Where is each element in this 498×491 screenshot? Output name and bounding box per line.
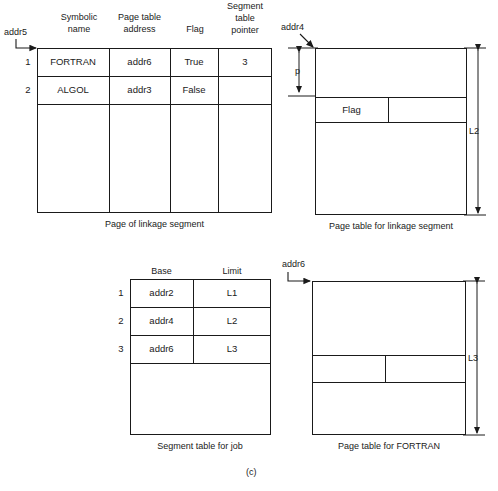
addr6-label: addr6 — [282, 259, 305, 270]
addr6-pointer-arrow — [288, 272, 310, 281]
column-header-limit: Limit — [193, 266, 271, 277]
cell-limit: L2 — [193, 315, 271, 326]
page-size-bracket — [288, 48, 318, 96]
segment-table-row-divider-1 — [130, 307, 271, 308]
caption-page-of-linkage-segment: Page of linkage segment — [37, 219, 272, 230]
addr5-pointer-arrow — [16, 39, 36, 48]
segment-table-row-number: 3 — [115, 343, 127, 354]
addr4-label: addr4 — [281, 22, 304, 33]
cell-symbolic-name: ALGOL — [37, 84, 109, 95]
l3-label: L3 — [468, 353, 478, 364]
column-header-flag: Flag — [170, 24, 220, 35]
l2-label: L2 — [469, 126, 479, 137]
linkage-page-col-divider-2 — [170, 48, 171, 213]
cell-flag-label: Flag — [315, 104, 388, 115]
fortran-pt-row-divider-2 — [312, 382, 466, 383]
column-header-symbolic-name-line1: Symbolic — [48, 12, 110, 23]
page-size-label-p: p — [295, 66, 300, 77]
segment-table-row-number: 1 — [115, 287, 127, 298]
segment-table-row-divider-2 — [130, 335, 271, 336]
fortran-pt-col-divider — [385, 355, 386, 382]
cell-segment-table-pointer: 3 — [218, 56, 272, 67]
cell-page-table-address: addr6 — [109, 56, 170, 67]
caption-segment-table-for-job: Segment table for job — [120, 441, 280, 452]
column-header-segment-table-pointer-line1: Segment — [218, 1, 272, 12]
column-header-base: Base — [130, 266, 193, 277]
linkage-page-col-divider-1 — [109, 48, 110, 213]
column-header-page-table-address-line2: address — [109, 24, 170, 35]
column-header-segment-table-pointer-line2: table — [218, 13, 272, 24]
figure-label: (c) — [246, 467, 257, 477]
segment-table-row-divider-3 — [130, 363, 271, 364]
column-header-page-table-address-line1: Page table — [109, 12, 170, 23]
segment-table-frame — [130, 279, 271, 435]
cell-base: addr4 — [130, 315, 193, 326]
addr5-label: addr5 — [4, 27, 27, 38]
cell-symbolic-name: FORTRAN — [37, 56, 109, 67]
linkage-pt-row-divider-2 — [315, 122, 467, 123]
cell-limit: L1 — [193, 287, 271, 298]
caption-page-table-for-linkage-segment: Page table for linkage segment — [303, 221, 479, 232]
figure-canvas: addr5 Symbolic name Page table address F… — [0, 0, 498, 491]
cell-flag: True — [170, 56, 218, 67]
addr4-pointer-arrow — [300, 34, 313, 47]
fortran-page-table-frame — [312, 281, 466, 435]
linkage-pt-flag-col-divider — [388, 97, 389, 122]
linkage-page-table-frame — [37, 48, 272, 213]
linkage-page-row-divider-1 — [37, 76, 272, 77]
linkage-page-table-frame-right — [315, 48, 467, 215]
linkage-pt-row-divider-1 — [315, 97, 467, 98]
linkage-page-row-divider-2 — [37, 104, 272, 105]
cell-base: addr6 — [130, 343, 193, 354]
caption-page-table-for-fortran: Page table for FORTRAN — [300, 441, 478, 452]
linkage-page-col-divider-3 — [218, 48, 219, 213]
linkage-page-row-number: 1 — [22, 56, 34, 67]
column-header-segment-table-pointer-line3: pointer — [218, 25, 272, 36]
linkage-page-row-number: 2 — [22, 84, 34, 95]
fortran-pt-row-divider-1 — [312, 355, 466, 356]
cell-page-table-address: addr3 — [109, 84, 170, 95]
segment-table-row-number: 2 — [115, 315, 127, 326]
cell-base: addr2 — [130, 287, 193, 298]
cell-limit: L3 — [193, 343, 271, 354]
column-header-symbolic-name-line2: name — [48, 24, 110, 35]
cell-flag: False — [170, 84, 218, 95]
